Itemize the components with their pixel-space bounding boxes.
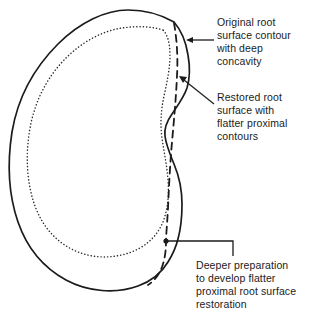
figure-root: Original root surface contour with deep …: [0, 0, 321, 317]
pulp-chamber-contour-path: [27, 27, 170, 257]
callout-original-root-surface: Original root surface contour with deep …: [217, 16, 317, 68]
restored-root-surface-path: [148, 23, 177, 285]
leader-deeper-preparation: [163, 238, 233, 256]
callout-restored-root-surface: Restored root surface with flatter proxi…: [217, 91, 317, 143]
leader-restored-root: [179, 76, 214, 104]
original-root-surface-contour-path: [9, 10, 189, 291]
leader-original-root: [186, 37, 214, 43]
callout-deeper-preparation: Deeper preparation to develop flatter pr…: [196, 259, 320, 311]
